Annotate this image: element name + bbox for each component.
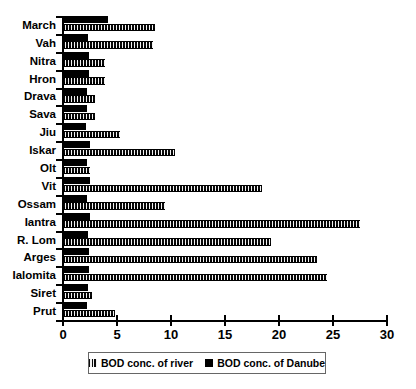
bar-group [63, 231, 387, 249]
bar-danube [63, 123, 86, 130]
legend-label-danube: BOD conc. of Danube [217, 357, 325, 369]
y-tick-mark [56, 52, 63, 54]
bar-river [63, 95, 95, 102]
x-tick-mark [332, 315, 334, 326]
y-axis-label-text: Sava [29, 108, 56, 120]
y-tick-mark [56, 141, 63, 143]
y-axis-label: Ossam [0, 195, 56, 213]
bar-group [63, 70, 387, 88]
y-axis-label: Hron [0, 70, 56, 88]
bar-river [63, 77, 105, 84]
y-tick-mark [56, 284, 63, 286]
y-axis-label: Vah [0, 34, 56, 52]
y-axis-label: Drava [0, 88, 56, 106]
bar-group [63, 52, 387, 70]
y-axis-label: Nitra [0, 52, 56, 70]
bar-danube [63, 159, 87, 166]
y-axis-label-text: R. Lom [17, 234, 56, 246]
bar-danube [63, 195, 87, 202]
y-axis-label: Iantra [0, 213, 56, 231]
y-tick-mark [56, 213, 63, 215]
x-tick-label: 25 [313, 327, 353, 342]
y-axis-label: Siret [0, 284, 56, 302]
y-axis-label-text: Vit [42, 180, 57, 192]
bar-danube [63, 248, 89, 255]
bar-river [63, 220, 360, 227]
y-axis-label-text: March [22, 19, 56, 31]
x-tick-mark [224, 315, 226, 326]
bar-river [63, 238, 271, 245]
bar-danube [63, 284, 88, 291]
bar-group [63, 141, 387, 159]
bar-river [63, 113, 95, 120]
bar-group [63, 105, 387, 123]
y-axis-label: March [0, 16, 56, 34]
y-tick-mark [56, 248, 63, 250]
y-tick-mark [56, 123, 63, 125]
y-tick-mark [56, 320, 63, 322]
bar-river [63, 274, 327, 281]
bar-group [63, 123, 387, 141]
y-axis-label: Jiu [0, 123, 56, 141]
y-axis-label-text: Drava [24, 90, 56, 102]
legend-label-river: BOD conc. of river [101, 357, 193, 369]
x-tick-label: 30 [367, 327, 407, 342]
bar-river [63, 149, 175, 156]
bar-danube [63, 88, 87, 95]
bar-danube [63, 105, 87, 112]
x-tick-mark [116, 315, 118, 326]
bar-river [63, 167, 90, 174]
y-axis-label: Arges [0, 248, 56, 266]
bar-group [63, 266, 387, 284]
bar-danube [63, 52, 89, 59]
y-tick-mark [56, 302, 63, 304]
y-axis-label-text: Iantra [25, 216, 56, 228]
y-axis-label-text: Olt [40, 162, 56, 174]
y-axis-label: Vit [0, 177, 56, 195]
bar-danube [63, 266, 89, 273]
bar-danube [63, 141, 90, 148]
bar-danube [63, 302, 87, 309]
x-tick-label: 20 [259, 327, 299, 342]
bar-river [63, 59, 105, 66]
x-tick-mark [386, 315, 388, 326]
y-axis-label-text: Nitra [30, 55, 56, 67]
y-axis-label: R. Lom [0, 231, 56, 249]
y-tick-mark [56, 88, 63, 90]
bar-group [63, 177, 387, 195]
bar-group [63, 34, 387, 52]
x-tick-label: 10 [151, 327, 191, 342]
bar-danube [63, 177, 90, 184]
chart-legend: BOD conc. of river BOD conc. of Danube [88, 352, 326, 374]
bar-river [63, 292, 92, 299]
bar-danube [63, 231, 88, 238]
y-axis-label-text: Ossam [18, 198, 56, 210]
bar-group [63, 248, 387, 266]
legend-entry-river: BOD conc. of river [89, 357, 193, 369]
y-axis-label-text: Vah [36, 37, 56, 49]
y-tick-mark [56, 195, 63, 197]
y-tick-mark [56, 159, 63, 161]
bar-danube [63, 16, 108, 23]
plot-area [63, 16, 387, 320]
bar-group [63, 88, 387, 106]
y-axis-line [62, 16, 64, 321]
y-axis-label-text: Ialomita [13, 269, 56, 281]
y-tick-mark [56, 266, 63, 268]
legend-swatch-danube-icon [205, 359, 213, 367]
x-tick-mark [278, 315, 280, 326]
y-axis-labels: MarchVahNitraHronDravaSavaJiuIskarOltVit… [0, 16, 56, 320]
x-tick-label: 15 [205, 327, 245, 342]
bar-river [63, 41, 153, 48]
y-tick-mark [56, 34, 63, 36]
y-axis-label: Iskar [0, 141, 56, 159]
x-tick-mark [170, 315, 172, 326]
bod-concentration-bar-chart: MarchVahNitraHronDravaSavaJiuIskarOltVit… [0, 0, 416, 389]
y-axis-label-text: Arges [23, 251, 56, 263]
y-axis-label-text: Jiu [39, 126, 56, 138]
bar-river [63, 310, 115, 317]
legend-entry-danube: BOD conc. of Danube [205, 357, 325, 369]
x-tick-label: 0 [43, 327, 83, 342]
legend-swatch-river-icon [89, 359, 97, 367]
bar-danube [63, 34, 88, 41]
